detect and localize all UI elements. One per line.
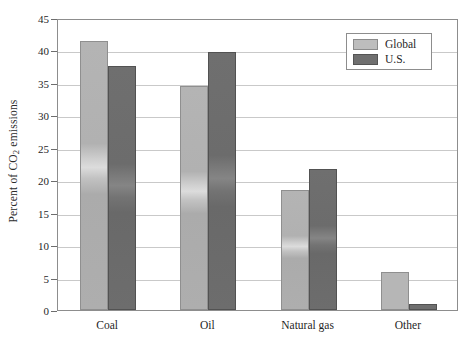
y-axis-tick-label: 5 bbox=[9, 274, 49, 285]
bar-natural-gas-global bbox=[281, 190, 309, 310]
y-axis-title-suffix: emissions bbox=[7, 99, 19, 149]
y-axis-tick-label: 35 bbox=[9, 79, 49, 90]
y-axis-tick-label: 45 bbox=[9, 14, 49, 25]
legend-item-global: Global bbox=[353, 38, 416, 51]
y-axis-tick-label: 40 bbox=[9, 46, 49, 57]
bar-other-us bbox=[409, 304, 437, 310]
y-axis-title: Percent of CO2 emissions bbox=[7, 61, 21, 261]
bar-coal-us bbox=[108, 66, 136, 310]
legend-swatch-us bbox=[353, 54, 378, 65]
y-axis-tick-label: 15 bbox=[9, 209, 49, 220]
legend: Global U.S. bbox=[346, 33, 432, 70]
bar-other-global bbox=[381, 272, 409, 310]
legend-label-us: U.S. bbox=[385, 54, 405, 66]
y-axis-tick-label: 0 bbox=[9, 306, 49, 317]
bar-natural-gas-us bbox=[309, 169, 337, 310]
legend-swatch-global bbox=[353, 39, 378, 50]
y-axis-tick-label: 20 bbox=[9, 176, 49, 187]
y-axis-tick-label: 25 bbox=[9, 144, 49, 155]
x-axis-label-other: Other bbox=[348, 319, 468, 331]
legend-item-us: U.S. bbox=[353, 53, 405, 66]
legend-label-global: Global bbox=[385, 39, 416, 51]
y-axis-tick-label: 30 bbox=[9, 111, 49, 122]
bar-coal-global bbox=[80, 41, 108, 310]
bar-oil-us bbox=[208, 52, 236, 310]
y-axis-tick bbox=[51, 311, 57, 312]
bar-oil-global bbox=[180, 86, 208, 310]
bar-chart: Percent of CO2 emissions 051015202530354… bbox=[0, 0, 470, 344]
y-axis-tick-label: 10 bbox=[9, 241, 49, 252]
